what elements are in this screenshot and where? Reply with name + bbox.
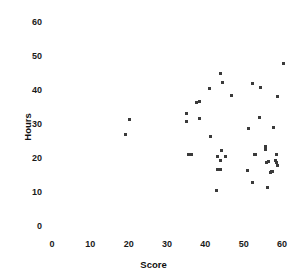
data-point bbox=[190, 153, 193, 156]
data-point bbox=[258, 116, 261, 119]
data-point bbox=[266, 186, 269, 189]
data-point bbox=[221, 81, 224, 84]
data-point bbox=[276, 95, 279, 98]
data-point bbox=[275, 153, 278, 156]
y-tick-label: 20 bbox=[0, 153, 42, 163]
x-tick-label: 0 bbox=[49, 239, 54, 249]
data-point bbox=[215, 189, 218, 192]
data-point bbox=[219, 159, 222, 162]
data-point bbox=[282, 62, 285, 65]
data-point bbox=[259, 86, 262, 89]
y-tick-label: 0 bbox=[0, 221, 42, 231]
scatter-plot-figure: 0102030405060 0102030405060 Score Hours bbox=[0, 0, 307, 279]
plot-area bbox=[0, 0, 307, 279]
x-tick-label: 40 bbox=[200, 239, 210, 249]
data-point bbox=[254, 153, 257, 156]
data-point bbox=[267, 160, 270, 163]
x-tick-label: 10 bbox=[85, 239, 95, 249]
data-point bbox=[198, 117, 201, 120]
data-point bbox=[185, 120, 188, 123]
data-point bbox=[220, 149, 223, 152]
data-point bbox=[246, 169, 249, 172]
data-point bbox=[264, 145, 267, 148]
data-point bbox=[124, 133, 127, 136]
data-point bbox=[209, 135, 212, 138]
data-point bbox=[251, 181, 254, 184]
x-tick-label: 20 bbox=[124, 239, 134, 249]
data-point bbox=[128, 118, 131, 121]
y-tick-label: 60 bbox=[0, 17, 42, 27]
data-point bbox=[271, 170, 274, 173]
y-axis-title: Hours bbox=[22, 113, 33, 140]
data-point bbox=[276, 164, 279, 167]
y-tick-label: 10 bbox=[0, 187, 42, 197]
y-tick-label: 30 bbox=[0, 119, 42, 129]
data-point bbox=[208, 87, 211, 90]
data-point bbox=[230, 94, 233, 97]
x-tick-label: 60 bbox=[277, 239, 287, 249]
data-point bbox=[247, 127, 250, 130]
data-point bbox=[198, 100, 201, 103]
data-point bbox=[185, 112, 188, 115]
data-point bbox=[251, 82, 254, 85]
x-tick-label: 50 bbox=[239, 239, 249, 249]
data-point bbox=[219, 168, 222, 171]
x-axis-title: Score bbox=[140, 259, 166, 270]
x-tick-label: 30 bbox=[162, 239, 172, 249]
data-point bbox=[224, 155, 227, 158]
data-point bbox=[219, 72, 222, 75]
y-tick-label: 40 bbox=[0, 85, 42, 95]
y-tick-label: 50 bbox=[0, 51, 42, 61]
data-point bbox=[272, 126, 275, 129]
